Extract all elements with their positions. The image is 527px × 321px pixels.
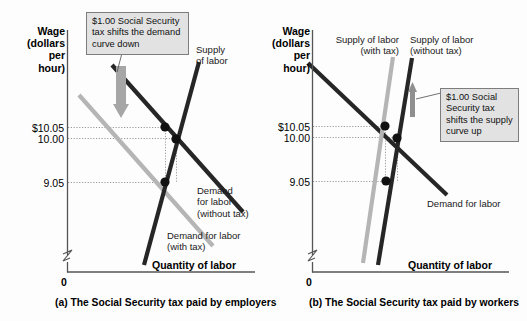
- origin-label: 0: [61, 276, 67, 288]
- callout-leader-line: [416, 93, 441, 99]
- origin-label: 0: [306, 276, 312, 288]
- point-wage-10-05: [160, 122, 169, 131]
- point-wage-10-05: [380, 121, 389, 130]
- y-tick-label-10-00: 10.00: [6, 133, 64, 145]
- axis-break-mark: [308, 250, 317, 261]
- figure-social-security-tax-incidence: Wage (dollars per hour) $10.05 10.00 9.0…: [0, 0, 527, 321]
- curve-supply-with-tax: [363, 57, 393, 263]
- panel-b-caption: (b) The Social Security tax paid by work…: [309, 297, 519, 308]
- callout-demand-shift: $1.00 Social Security tax shifts the dem…: [86, 12, 189, 55]
- point-wage-10-00: [171, 134, 180, 143]
- label-supply-of-labor: Supply of labor: [196, 44, 260, 67]
- point-wage-9-05: [381, 176, 390, 185]
- curve-demand-with-tax: [79, 95, 213, 246]
- y-axis-title: Wage (dollars per hour): [254, 25, 310, 74]
- label-demand-without-tax: Demand for labor (without tax): [197, 185, 267, 219]
- label-demand-for-labor: Demand for labor: [427, 198, 523, 209]
- point-wage-9-05: [160, 177, 169, 186]
- panel-b-workers: Wage (dollars per hour) $10.05 10.00 9.0…: [264, 0, 527, 321]
- guide-lines: [68, 128, 177, 183]
- label-demand-with-tax: Demand for labor (with tax): [167, 230, 267, 253]
- x-axis-title: Quantity of labor: [152, 259, 236, 271]
- y-tick-label-10-00: 10.00: [252, 132, 310, 144]
- panel-a-caption: (a) The Social Security tax paid by empl…: [55, 297, 276, 308]
- label-supply-with-tax: Supply of labor (with tax): [314, 34, 399, 57]
- axis-break-mark: [63, 250, 72, 261]
- label-supply-without-tax: Supply of labor (without tax): [410, 34, 500, 57]
- panel-a-employers: Wage (dollars per hour) $10.05 10.00 9.0…: [0, 0, 263, 321]
- y-axis-title: Wage (dollars per hour): [10, 25, 65, 74]
- point-wage-10-00: [392, 133, 401, 142]
- y-tick-label-9-05: 9.05: [252, 176, 310, 188]
- shift-arrow-up-icon: [408, 82, 417, 117]
- shift-arrow-down-icon: [113, 66, 129, 118]
- curve-supply-without-tax: [378, 58, 412, 265]
- x-axis-title: Quantity of labor: [408, 259, 492, 271]
- callout-supply-shift: $1.00 Social Security tax shifts the sup…: [440, 88, 519, 142]
- y-tick-label-9-05: 9.05: [6, 177, 64, 189]
